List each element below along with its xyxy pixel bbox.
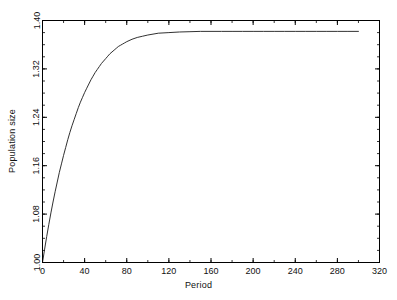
x-tick-label: 200 [246,266,261,276]
x-tick-label: 160 [203,266,218,276]
x-tick-label: 240 [288,266,303,276]
y-tick-label: 1.00 [32,254,42,272]
y-tick-label: 1.16 [32,157,42,175]
x-tick-label: 120 [161,266,176,276]
y-axis-title-wrapper: Population size [4,20,20,262]
chart-figure: Population size Period 04080120160200240… [0,0,397,300]
x-tick-label: 40 [80,266,90,276]
y-axis-title: Population size [7,109,17,173]
y-tick-label: 1.08 [32,205,42,223]
x-axis-title: Period [0,280,397,290]
y-tick-label: 1.24 [32,109,42,127]
x-tick-label: 280 [330,266,345,276]
x-tick-label: 80 [122,266,132,276]
plot-area: 040801201602002402803201.001.081.161.241… [0,0,397,300]
x-tick-label: 320 [372,266,387,276]
y-tick-label: 1.32 [32,60,42,78]
y-tick-label: 1.40 [32,12,42,30]
chart-background [0,0,397,300]
